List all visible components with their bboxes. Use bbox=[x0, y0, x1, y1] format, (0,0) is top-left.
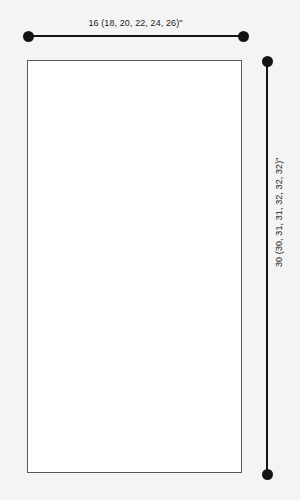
length-dimension-label: 30 (30, 31, 31, 32, 32, 32)" bbox=[275, 157, 284, 267]
length-dimension-endpoint-bottom-icon bbox=[262, 469, 273, 480]
width-dimension-line bbox=[28, 35, 243, 37]
garment-panel bbox=[27, 60, 242, 473]
width-dimension-endpoint-left-icon bbox=[23, 31, 34, 42]
width-dimension-endpoint-right-icon bbox=[238, 31, 249, 42]
width-dimension-label: 16 (18, 20, 22, 24, 26)" bbox=[0, 19, 271, 28]
schematic-diagram: 16 (18, 20, 22, 24, 26)" 30 (30, 31, 31,… bbox=[0, 0, 300, 500]
length-dimension-endpoint-top-icon bbox=[262, 56, 273, 67]
length-dimension-line bbox=[266, 61, 268, 474]
